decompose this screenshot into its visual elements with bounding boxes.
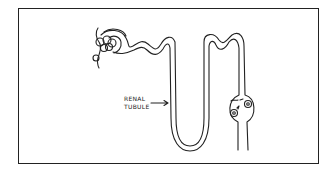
distal-cells-icon xyxy=(231,99,252,117)
renal-tubule-label: RENAL TUBULE xyxy=(124,95,150,111)
label-line-2: TUBULE xyxy=(124,103,150,111)
label-line-1: RENAL xyxy=(124,95,150,103)
tubule-inner-wall xyxy=(109,36,239,151)
arrow-icon xyxy=(151,101,168,106)
glomerulus-icon xyxy=(93,28,116,68)
tubule-outer-wall xyxy=(101,30,254,150)
renal-tubule-diagram xyxy=(0,0,335,171)
